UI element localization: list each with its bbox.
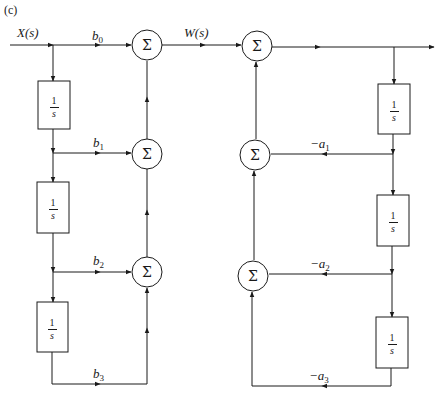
intermediate-signal-label: W(s) xyxy=(184,26,209,39)
summer-bottom-right: Σ xyxy=(238,261,268,291)
integrator-right-2: 1s xyxy=(377,211,409,234)
gain-b2-label: b2 xyxy=(93,254,104,270)
panel-label: (c) xyxy=(4,3,17,18)
gain-neg-a2-label: −a2 xyxy=(310,257,330,273)
summer-mid-left: Σ xyxy=(132,139,162,169)
gain-b0-label: b0 xyxy=(92,29,103,45)
integrator-left-3: 1s xyxy=(36,318,68,341)
integrator-right-3: 1s xyxy=(376,333,408,356)
integrator-right-1: 1s xyxy=(378,100,410,123)
gain-neg-a1-label: −a1 xyxy=(310,137,330,153)
gain-b1-label: b1 xyxy=(93,136,104,152)
summer-bottom-left: Σ xyxy=(132,257,162,287)
summer-top-left: Σ xyxy=(132,30,162,60)
integrator-left-1: 1s xyxy=(38,96,70,119)
integrator-left-2: 1s xyxy=(37,198,69,221)
gain-neg-a3-label: −a3 xyxy=(309,369,329,385)
summer-mid-right: Σ xyxy=(240,140,270,170)
gain-b3-label: b3 xyxy=(93,367,104,383)
input-signal-label: X(s) xyxy=(17,26,39,39)
summer-top-right: Σ xyxy=(242,31,272,61)
